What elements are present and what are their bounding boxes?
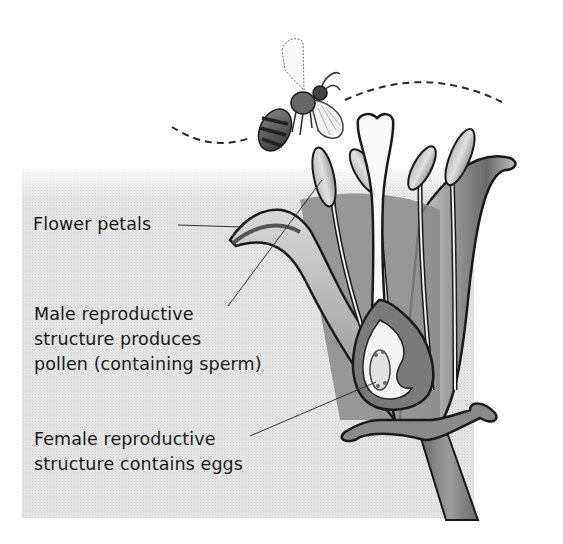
label-flower-petals: Flower petals [33,212,151,237]
stem [420,435,478,520]
label-line: pollen (containing sperm) [34,352,262,377]
label-line: Male reproductive [34,302,262,327]
bee [252,39,343,157]
eggs [370,350,390,390]
label-male-reproductive-structure: Male reproductive structure produces pol… [34,302,262,377]
label-line: Female reproductive [34,427,243,452]
leader-line-petals [178,225,242,227]
label-line: Flower petals [33,212,151,237]
label-line: structure contains eggs [34,452,243,477]
label-line: structure produces [34,327,262,352]
label-female-reproductive-structure: Female reproductive structure contains e… [34,427,243,477]
